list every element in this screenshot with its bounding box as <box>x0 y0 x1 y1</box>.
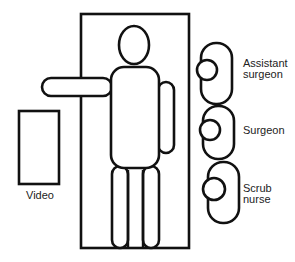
scrub-nurse-label-line2: nurse <box>243 194 272 205</box>
video-monitor <box>19 111 59 184</box>
assistant-surgeon-head <box>197 60 217 80</box>
patient-left-leg <box>112 166 128 248</box>
surgeon-head <box>200 120 220 140</box>
patient-right-leg <box>143 166 159 248</box>
patient-head <box>119 26 149 64</box>
video-label: Video <box>26 190 54 201</box>
assistant-surgeon-label: Assistant surgeon <box>243 58 288 80</box>
patient-right-arm <box>158 82 174 153</box>
surgeon-label: Surgeon <box>243 125 285 136</box>
patient-torso <box>111 67 159 168</box>
scrub-nurse-head <box>203 178 225 200</box>
surgeon-label-line1: Surgeon <box>243 125 285 136</box>
assistant-surgeon-label-line2: surgeon <box>243 69 288 80</box>
scrub-nurse-label: Scrub nurse <box>243 183 272 205</box>
patient-arm-board <box>42 78 112 96</box>
